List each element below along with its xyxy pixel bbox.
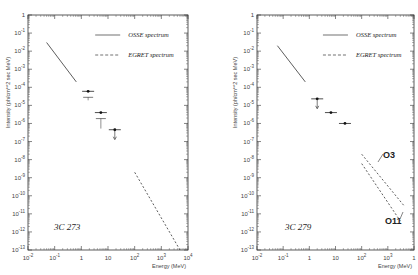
tick-label: 10-1: [243, 28, 254, 36]
data-point: [95, 111, 107, 128]
tick-label: 10-11: [12, 209, 25, 217]
tick-label: 10-3: [243, 64, 254, 72]
tick-label: 10-10: [12, 191, 26, 199]
egret-spectrum-line: [135, 172, 180, 250]
tick-label: 10-6: [243, 118, 254, 126]
chart-panel-3c-279: 10-210-11101021031110-110-210-310-410-51…: [232, 12, 416, 269]
x-axis-label: Energy (MeV): [152, 263, 186, 269]
source-label: 3C 273: [53, 222, 81, 232]
y-axis-label: Intensity (ph/cm**2 sec MeV): [232, 57, 238, 128]
tick-label: 10-1: [14, 28, 25, 36]
tick-label: 10-2: [252, 253, 263, 261]
tick-label: 10-4: [243, 82, 254, 90]
tick-label: 1: [80, 255, 84, 261]
tick-label: 1: [412, 255, 416, 261]
source-label: 3C 279: [284, 222, 312, 232]
tick-label: 10-11: [241, 209, 254, 217]
legend-egret-label: EGRET spectrum: [127, 51, 174, 58]
annotation-o3: O3: [383, 150, 395, 160]
tick-label: 1: [308, 255, 312, 261]
tick-label: 10-8: [243, 155, 254, 163]
tick-label: 10-2: [14, 46, 25, 54]
tick-label: 10: [105, 255, 112, 261]
tick-label: 102: [130, 253, 140, 261]
tick-label: 1: [251, 12, 255, 18]
tick-label: 10-5: [243, 100, 254, 108]
legend-osse-label: OSSE spectrum: [128, 31, 169, 38]
tick-label: 10-9: [14, 173, 25, 181]
tick-label: 10-10: [241, 191, 255, 199]
tick-label: 10-13: [12, 245, 26, 253]
tick-label: 10-2: [243, 46, 254, 54]
osse-spectrum-line: [47, 43, 77, 82]
tick-label: 10-12: [12, 227, 26, 235]
tick-label: 10-12: [241, 227, 255, 235]
tick-label: 103: [157, 253, 167, 261]
tick-label: 10-4: [14, 82, 25, 90]
tick-label: 10-1: [278, 253, 289, 261]
y-axis-label: Intensity (ph/cm**2 sec MeV): [5, 57, 11, 128]
tick-label: 10-1: [49, 253, 60, 261]
osse-spectrum-line: [277, 46, 305, 82]
legend-osse-label: OSSE spectrum: [356, 31, 397, 38]
tick-label: 10-8: [14, 155, 25, 163]
data-point: [82, 90, 94, 100]
tick-label: 10-3: [14, 64, 25, 72]
tick-label: 1: [22, 12, 26, 18]
tick-label: 10-6: [14, 118, 25, 126]
tick-label: 10-13: [241, 245, 255, 253]
data-point: [325, 111, 337, 114]
tick-label: 102: [357, 253, 367, 261]
legend-egret-label: EGRET spectrum: [355, 51, 402, 58]
egret-spectrum-line: [362, 164, 401, 221]
tick-label: 10-7: [243, 137, 254, 145]
data-point: [339, 122, 351, 125]
tick-label: 104: [183, 253, 193, 261]
figure-canvas: 10-210-1110102103104110-110-210-310-410-…: [0, 0, 418, 275]
tick-label: 103: [383, 253, 393, 261]
x-axis-label: Energy (MeV): [378, 263, 412, 269]
tick-label: 10: [332, 255, 339, 261]
chart-panel-3c-273: 10-210-1110102103104110-110-210-310-410-…: [5, 12, 193, 269]
tick-label: 10-5: [14, 100, 25, 108]
annotation-o11: O11: [385, 216, 402, 226]
data-point: [311, 97, 323, 108]
tick-label: 10-7: [14, 137, 25, 145]
tick-label: 10-9: [243, 173, 254, 181]
egret-spectrum-line: [362, 154, 404, 205]
tick-label: 10-2: [23, 253, 34, 261]
data-point: [109, 128, 121, 139]
